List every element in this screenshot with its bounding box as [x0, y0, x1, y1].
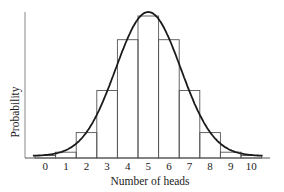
x-tick-label: 2: [84, 160, 90, 172]
histogram-bar: [76, 133, 97, 158]
histogram-bar: [179, 91, 200, 159]
x-tick-label: 9: [228, 160, 234, 172]
histogram-bar: [138, 16, 159, 158]
x-tick-label: 3: [104, 160, 110, 172]
x-tick-label: 5: [146, 160, 152, 172]
x-tick-label: 0: [43, 160, 49, 172]
x-tick-labels: 012345678910: [43, 160, 258, 172]
histogram-bar: [97, 91, 118, 159]
x-tick-label: 4: [125, 160, 131, 172]
x-tick-label: 7: [187, 160, 193, 172]
x-tick-label: 1: [63, 160, 69, 172]
histogram-bars: [35, 16, 262, 158]
histogram-bar: [200, 133, 221, 158]
y-axis-title: Probability: [9, 86, 22, 137]
normal-curve: [33, 12, 263, 156]
x-tick-label: 10: [246, 160, 258, 172]
chart: 012345678910 Number of heads Probability: [0, 0, 284, 192]
x-tick-label: 6: [166, 160, 172, 172]
x-tick-label: 8: [207, 160, 213, 172]
x-axis-title: Number of heads: [110, 175, 190, 187]
